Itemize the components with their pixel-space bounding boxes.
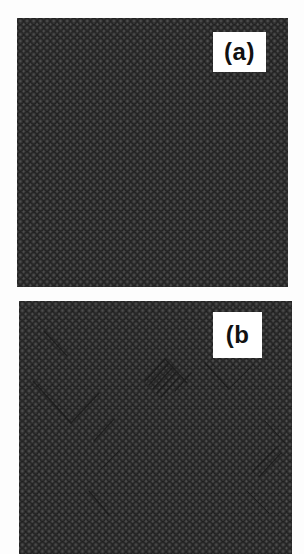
panel-label: (b [226,323,250,347]
panel-b: (b [19,301,292,554]
panel-label-box: (a) [213,32,266,72]
panel-a: (a) [17,18,288,287]
panel-label: (a) [224,40,255,64]
figure: (a) [0,0,304,554]
panel-label-box: (b [213,312,262,358]
